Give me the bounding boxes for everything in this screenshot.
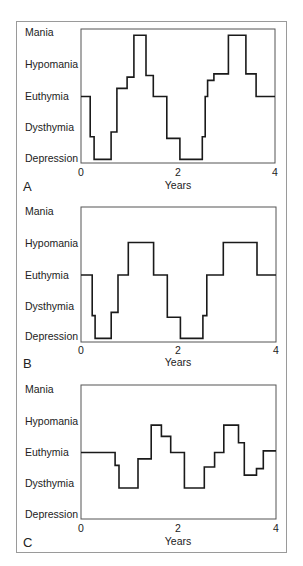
y-label-mania: Mania bbox=[25, 205, 54, 217]
y-label-dysthymia: Dysthymia bbox=[25, 477, 74, 489]
y-label-mania: Mania bbox=[25, 383, 54, 395]
y-label-depression: Depression bbox=[25, 152, 78, 164]
y-label-dysthymia: Dysthymia bbox=[25, 121, 74, 133]
panel-b: Mania Hypomania Euthymia Dysthymia Depre… bbox=[23, 205, 279, 371]
x-tick-0: 0 bbox=[78, 344, 84, 356]
x-tick-2: 2 bbox=[175, 166, 181, 178]
x-tick-0: 0 bbox=[78, 166, 84, 178]
y-label-euthymia: Euthymia bbox=[25, 269, 69, 281]
mood-trace bbox=[81, 35, 275, 159]
mood-trace bbox=[81, 425, 276, 488]
figure: Mania Hypomania Euthymia Dysthymia Depre… bbox=[0, 0, 303, 566]
panel-label-c: C bbox=[23, 535, 32, 550]
x-tick-2: 2 bbox=[175, 344, 181, 356]
x-tick-4: 4 bbox=[272, 166, 278, 178]
panel-label-a: A bbox=[23, 179, 32, 194]
x-axis-label: Years bbox=[165, 356, 191, 368]
mood-trace bbox=[81, 243, 276, 339]
x-axis-label: Years bbox=[165, 179, 191, 191]
x-tick-4: 4 bbox=[273, 522, 279, 534]
plot-area bbox=[81, 207, 276, 342]
y-label-dysthymia: Dysthymia bbox=[25, 300, 74, 312]
y-label-hypomania: Hypomania bbox=[25, 415, 78, 427]
y-label-euthymia: Euthymia bbox=[25, 90, 69, 102]
x-tick-4: 4 bbox=[273, 344, 279, 356]
y-label-hypomania: Hypomania bbox=[25, 237, 78, 249]
x-axis-label: Years bbox=[165, 535, 191, 547]
panel-c: Mania Hypomania Euthymia Dysthymia Depre… bbox=[23, 383, 279, 550]
panel-label-b: B bbox=[23, 356, 32, 371]
x-tick-0: 0 bbox=[78, 522, 84, 534]
y-label-mania: Mania bbox=[25, 26, 54, 38]
y-label-depression: Depression bbox=[25, 330, 78, 342]
y-label-hypomania: Hypomania bbox=[25, 58, 78, 70]
y-label-euthymia: Euthymia bbox=[25, 446, 69, 458]
panel-a: Mania Hypomania Euthymia Dysthymia Depre… bbox=[23, 26, 278, 194]
x-tick-2: 2 bbox=[175, 522, 181, 534]
y-label-depression: Depression bbox=[25, 508, 78, 520]
